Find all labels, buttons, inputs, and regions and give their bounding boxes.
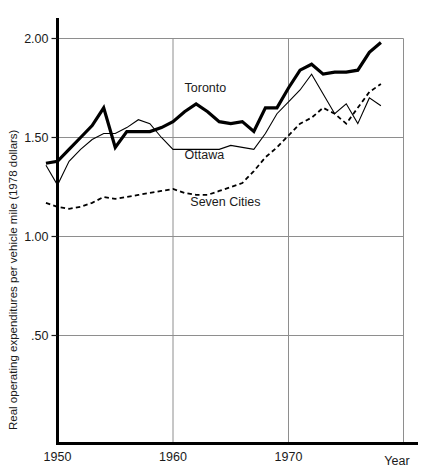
series-label-seven-cities: Seven Cities <box>190 195 260 209</box>
x-axis-name: Year <box>384 454 409 468</box>
chart-figure: .501.001.502.00 195019601970 TorontoOtta… <box>0 0 431 475</box>
y-axis-title: Real operating expenditures per vehicle … <box>7 129 19 430</box>
y-tick-label-.50: .50 <box>31 329 48 343</box>
x-tick-label-1950: 1950 <box>44 450 72 464</box>
x-tick-label-1970: 1970 <box>275 450 303 464</box>
y-tick-label-2.00: 2.00 <box>24 32 48 46</box>
line-chart-svg: .501.001.502.00 195019601970 TorontoOtta… <box>0 0 431 475</box>
chart-background <box>0 0 431 475</box>
series-label-ottawa: Ottawa <box>185 148 225 162</box>
y-tick-label-1.00: 1.00 <box>24 230 48 244</box>
series-label-toronto: Toronto <box>185 81 227 95</box>
y-tick-label-1.50: 1.50 <box>24 131 48 145</box>
x-tick-label-1960: 1960 <box>159 450 187 464</box>
